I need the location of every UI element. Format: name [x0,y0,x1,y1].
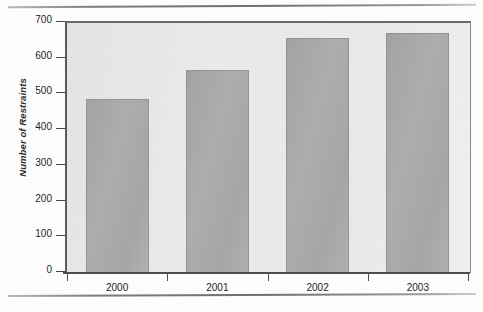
scanned-page: Number of Restraints 0100200300400500600… [0,0,483,312]
x-axis-label-2003: 2003 [378,282,458,293]
y-axis-tick-label-wrap: 600 [0,57,52,58]
y-axis-tick-label: 0 [8,264,52,275]
y-axis-tick-label-wrap: 500 [0,92,52,93]
y-axis-tick-label-wrap: 200 [0,200,52,201]
y-axis-tick [56,57,65,58]
y-axis-tick [56,200,65,201]
x-axis-tick [268,274,269,281]
x-axis-line [63,272,470,274]
x-axis-tick [67,274,68,281]
bar-chart-figure: Number of Restraints 0100200300400500600… [0,14,483,290]
x-axis-tick [167,274,168,281]
y-axis-tick [56,164,65,165]
x-axis-tick [468,274,469,281]
y-axis-tick-label-wrap: 0 [0,271,52,272]
y-axis-tick-label: 600 [8,50,52,61]
y-axis-tick-label-wrap: 700 [0,21,52,22]
y-axis-tick-label-wrap: 300 [0,164,52,165]
page-rule-top [8,4,476,8]
y-axis-tick-label: 300 [8,157,52,168]
y-axis-tick [56,21,65,22]
y-axis-tick [56,235,65,236]
x-axis-label-2000: 2000 [77,282,157,293]
y-axis-tick-label-wrap: 100 [0,235,52,236]
bar-2000 [86,99,149,272]
y-axis-tick-label-wrap: 400 [0,128,52,129]
y-axis-tick [56,128,65,129]
y-axis-tick-label: 200 [8,193,52,204]
bar-2001 [186,70,249,272]
y-axis-tick [56,92,65,93]
x-axis-label-2001: 2001 [177,282,257,293]
bar-2003 [386,33,449,272]
y-axis-tick-label: 400 [8,121,52,132]
y-axis-tick-label: 700 [8,14,52,25]
bar-2002 [286,38,349,272]
y-axis-tick-label: 500 [8,85,52,96]
bars-group [67,23,468,272]
page-rule-bottom [8,293,476,297]
x-axis-label-2002: 2002 [278,282,358,293]
x-axis-tick [368,274,369,281]
y-axis-tick-label: 100 [8,228,52,239]
